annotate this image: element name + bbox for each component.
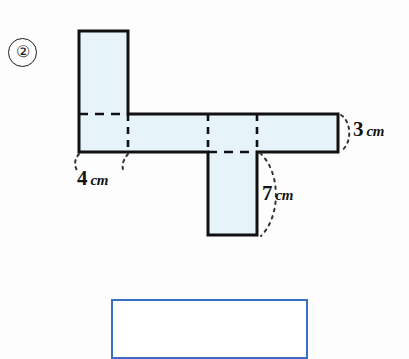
dimension-label-height: 3cm: [353, 117, 384, 142]
leader-arc-3cm: [341, 115, 349, 151]
net-face-top-flap: [79, 31, 128, 114]
dimension-unit-width: cm: [91, 172, 108, 188]
dimension-value-depth: 7: [262, 181, 273, 205]
dimension-unit-height: cm: [367, 123, 384, 139]
dimension-label-depth: 7cm: [262, 181, 293, 206]
dimension-value-width: 4: [77, 166, 88, 190]
leader-arc-4cm-right: [123, 154, 128, 172]
dimension-unit-depth: cm: [276, 187, 293, 203]
dimension-value-height: 3: [353, 117, 364, 141]
net-face-bottom-flap: [208, 152, 257, 235]
dimension-label-width: 4cm: [77, 166, 108, 191]
answer-entry-box[interactable]: [111, 299, 308, 359]
